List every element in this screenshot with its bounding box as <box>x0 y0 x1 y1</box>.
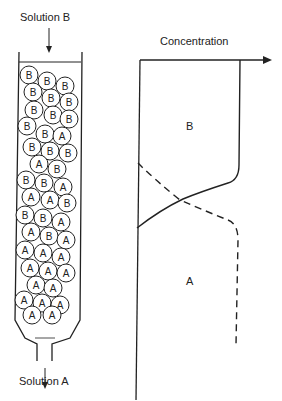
svg-text:A: A <box>29 310 36 321</box>
svg-text:A: A <box>58 252 65 263</box>
svg-text:B: B <box>26 70 33 81</box>
svg-text:A: A <box>40 248 47 259</box>
svg-text:B: B <box>47 146 54 157</box>
resin-bead: B <box>60 110 78 128</box>
svg-text:A: A <box>49 310 56 321</box>
resin-bead: B <box>40 227 58 245</box>
svg-text:A: A <box>47 195 54 206</box>
svg-text:A: A <box>22 245 29 256</box>
resin-bead: A <box>43 306 61 324</box>
inlet-label: Solution B <box>20 11 70 23</box>
svg-text:B: B <box>22 210 29 221</box>
resin-bead: B <box>18 117 36 135</box>
resin-beads: BBBBBBBBBBBABBBABBBAAABBBAABAAAAAAAAAAAA… <box>15 66 78 324</box>
svg-text:B: B <box>30 87 37 98</box>
concentration-axis <box>136 56 272 400</box>
svg-text:A: A <box>36 159 43 170</box>
resin-bead: B <box>48 160 66 178</box>
resin-bead: A <box>57 264 75 282</box>
resin-bead: B <box>17 171 35 189</box>
svg-text:B: B <box>50 110 57 121</box>
resin-bead: B <box>59 144 77 162</box>
svg-text:B: B <box>64 198 71 209</box>
svg-text:A: A <box>39 298 46 309</box>
svg-text:B: B <box>44 76 51 87</box>
svg-text:A: A <box>50 283 57 294</box>
resin-bead: A <box>30 155 48 173</box>
svg-text:A: A <box>60 182 67 193</box>
resin-bead: B <box>35 174 53 192</box>
svg-text:A: A <box>27 263 34 274</box>
curve-a-dashed <box>138 163 238 345</box>
resin-bead: B <box>20 66 38 84</box>
svg-text:A: A <box>63 268 70 279</box>
resin-bead: B <box>16 206 34 224</box>
svg-text:B: B <box>48 93 55 104</box>
svg-text:A: A <box>33 280 40 291</box>
svg-text:A: A <box>21 295 28 306</box>
svg-text:B: B <box>29 142 36 153</box>
resin-bead: A <box>53 127 71 145</box>
svg-text:B: B <box>54 164 61 175</box>
resin-bead: A <box>52 248 70 266</box>
svg-text:A: A <box>28 227 35 238</box>
region-label-a: A <box>186 275 193 287</box>
resin-bead: B <box>56 77 74 95</box>
svg-text:B: B <box>42 129 49 140</box>
resin-bead: B <box>34 209 52 227</box>
resin-bead: B <box>58 194 76 212</box>
svg-text:B: B <box>23 175 30 186</box>
svg-text:A: A <box>45 266 52 277</box>
inlet-arrow-icon <box>46 28 52 53</box>
svg-text:B: B <box>65 148 72 159</box>
svg-text:B: B <box>40 213 47 224</box>
svg-text:B: B <box>24 121 31 132</box>
svg-text:B: B <box>41 178 48 189</box>
resin-bead: A <box>16 241 34 259</box>
resin-bead: A <box>23 306 41 324</box>
resin-bead: A <box>39 262 57 280</box>
svg-text:A: A <box>59 131 66 142</box>
region-label-b: B <box>186 120 193 132</box>
x-axis-label: Concentration <box>160 35 229 47</box>
outlet-label: Solution A <box>19 375 69 387</box>
svg-text:A: A <box>28 192 35 203</box>
resin-bead: A <box>27 276 45 294</box>
resin-bead: A <box>22 223 40 241</box>
resin-bead: A <box>22 188 40 206</box>
resin-bead: A <box>52 213 70 231</box>
resin-bead: A <box>44 279 62 297</box>
resin-bead: B <box>23 138 41 156</box>
resin-bead: A <box>41 191 59 209</box>
resin-bead: B <box>60 93 78 111</box>
resin-bead: A <box>57 231 75 249</box>
curve-b-solid <box>137 60 240 228</box>
resin-bead: B <box>42 89 60 107</box>
svg-text:B: B <box>66 97 73 108</box>
svg-text:B: B <box>62 81 69 92</box>
svg-text:A: A <box>63 235 70 246</box>
svg-text:B: B <box>66 114 73 125</box>
resin-bead: B <box>44 106 62 124</box>
resin-bead: B <box>25 101 43 119</box>
svg-text:A: A <box>58 217 65 228</box>
resin-bead: B <box>24 83 42 101</box>
svg-text:B: B <box>46 231 53 242</box>
svg-text:B: B <box>31 105 38 116</box>
resin-bead: A <box>34 244 52 262</box>
diagram-canvas: BBBBBBBBBBBABBBABBBAAABBBAABAAAAAAAAAAAA… <box>0 0 282 401</box>
resin-bead: A <box>21 259 39 277</box>
